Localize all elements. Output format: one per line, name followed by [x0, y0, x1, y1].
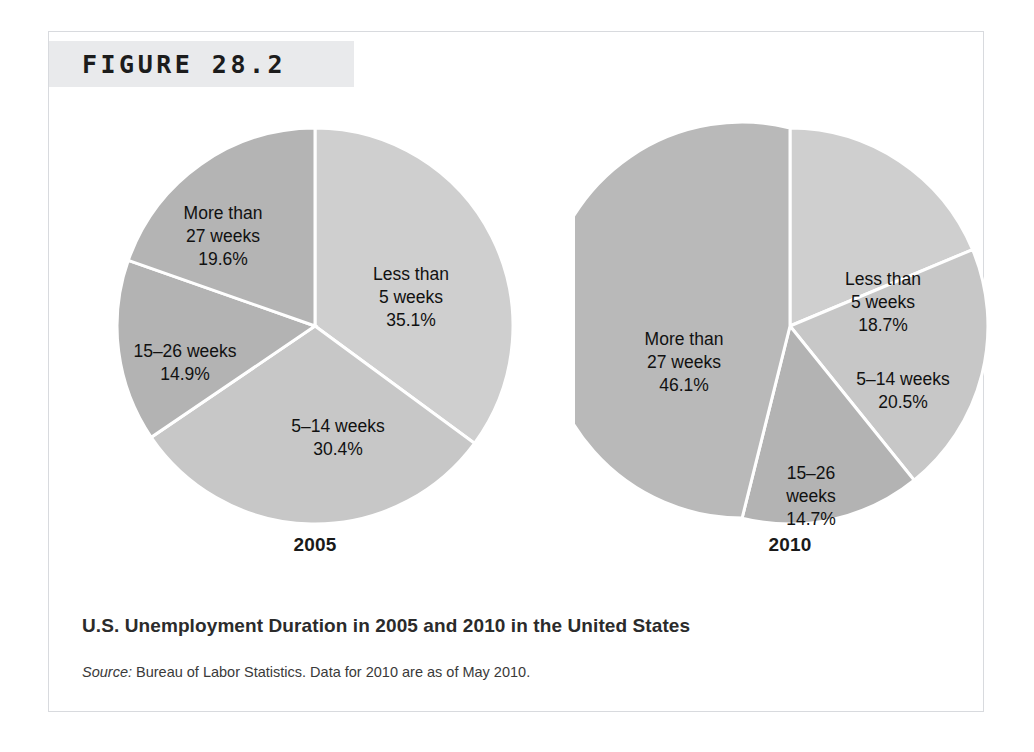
pie-chart-2005: Less than 5 weeks 35.1% 5–14 weeks 30.4%…	[100, 110, 530, 580]
year-label-2010: 2010	[575, 534, 1005, 556]
slice-label-2005-5-14-weeks: 5–14 weeks 30.4%	[248, 415, 428, 461]
figure-caption: U.S. Unemployment Duration in 2005 and 2…	[82, 615, 690, 637]
figure-root: FIGURE 28.2 Less than 5 weeks	[0, 0, 1034, 752]
charts-area: Less than 5 weeks 35.1% 5–14 weeks 30.4%…	[48, 110, 984, 580]
pie-slice-2010-more-than-27-weeks	[575, 122, 790, 518]
figure-source: Source: Bureau of Labor Statistics. Data…	[82, 664, 530, 680]
year-label-2005: 2005	[100, 534, 530, 556]
slice-label-2005-15-26-weeks: 15–26 weeks 14.9%	[95, 340, 275, 386]
slice-label-2010-5-14-weeks: 5–14 weeks 20.5%	[823, 368, 983, 414]
slice-label-2010-less-than-5-weeks: Less than 5 weeks 18.7%	[803, 268, 963, 337]
slice-label-2010-15-26-weeks: 15–26 weeks 14.7%	[751, 462, 871, 531]
slice-label-2005-more-than-27-weeks: More than 27 weeks 19.6%	[138, 202, 308, 271]
pie-chart-2010: Less than 5 weeks 18.7% 5–14 weeks 20.5%…	[575, 110, 1005, 580]
slice-label-2010-more-than-27-weeks: More than 27 weeks 46.1%	[599, 328, 769, 397]
slice-label-2005-less-than-5-weeks: Less than 5 weeks 35.1%	[336, 263, 486, 332]
figure-number-banner: FIGURE 28.2	[49, 41, 354, 87]
figure-number-label: FIGURE 28.2	[82, 50, 286, 79]
source-body: Bureau of Labor Statistics. Data for 201…	[132, 664, 530, 680]
source-label: Source:	[82, 664, 132, 680]
